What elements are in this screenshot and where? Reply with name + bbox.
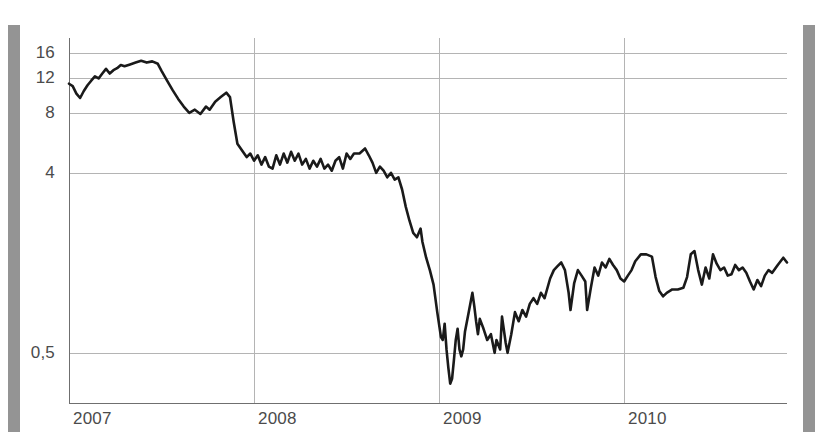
chart-canvas: 1612840,5 2007200820092010 [0,0,817,443]
data-series-line [0,0,817,443]
series-1-path [69,61,787,384]
